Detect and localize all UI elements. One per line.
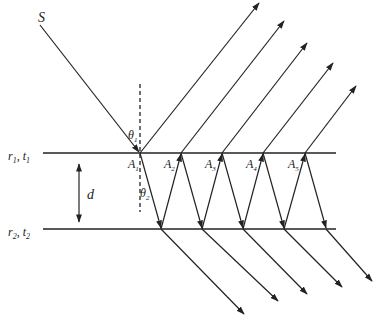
point-label-1: A1 xyxy=(127,157,139,173)
refraction-angle-label: θ2 xyxy=(140,186,150,202)
incident-ray xyxy=(40,25,139,152)
incidence-angle-label: θ1 xyxy=(128,128,137,144)
interference-diagram: S r1, t1 r2, t2 d θ1 θ2 A1A2A3A4A5 xyxy=(0,0,379,318)
bottom-interface-label: r2, t2 xyxy=(8,225,30,241)
thickness-label: d xyxy=(87,187,95,202)
point-labels: A1A2A3A4A5 xyxy=(127,157,299,173)
reflected-beam-2 xyxy=(181,21,284,153)
transmitted-beam-1 xyxy=(161,229,244,314)
point-label-5: A5 xyxy=(287,157,299,173)
internal-down-ray-5 xyxy=(305,153,326,228)
internal-down-ray-4 xyxy=(263,153,284,228)
top-interface-label: r1, t1 xyxy=(8,149,30,165)
internal-down-ray-2 xyxy=(181,153,202,228)
reflected-beam-5 xyxy=(305,86,356,153)
internal-down-ray-3 xyxy=(222,153,243,228)
point-label-4: A4 xyxy=(245,157,257,173)
transmitted-beam-2 xyxy=(202,229,278,301)
reflected-beam-1 xyxy=(140,3,259,153)
transmitted-beam-3 xyxy=(243,229,307,294)
reflected-beam-3 xyxy=(222,43,307,153)
ray-group xyxy=(140,3,372,314)
point-label-3: A3 xyxy=(204,157,216,173)
transmitted-beam-5 xyxy=(326,229,372,281)
reflected-beam-4 xyxy=(263,63,333,153)
source-label: S xyxy=(38,10,45,25)
point-label-2: A2 xyxy=(163,157,175,173)
